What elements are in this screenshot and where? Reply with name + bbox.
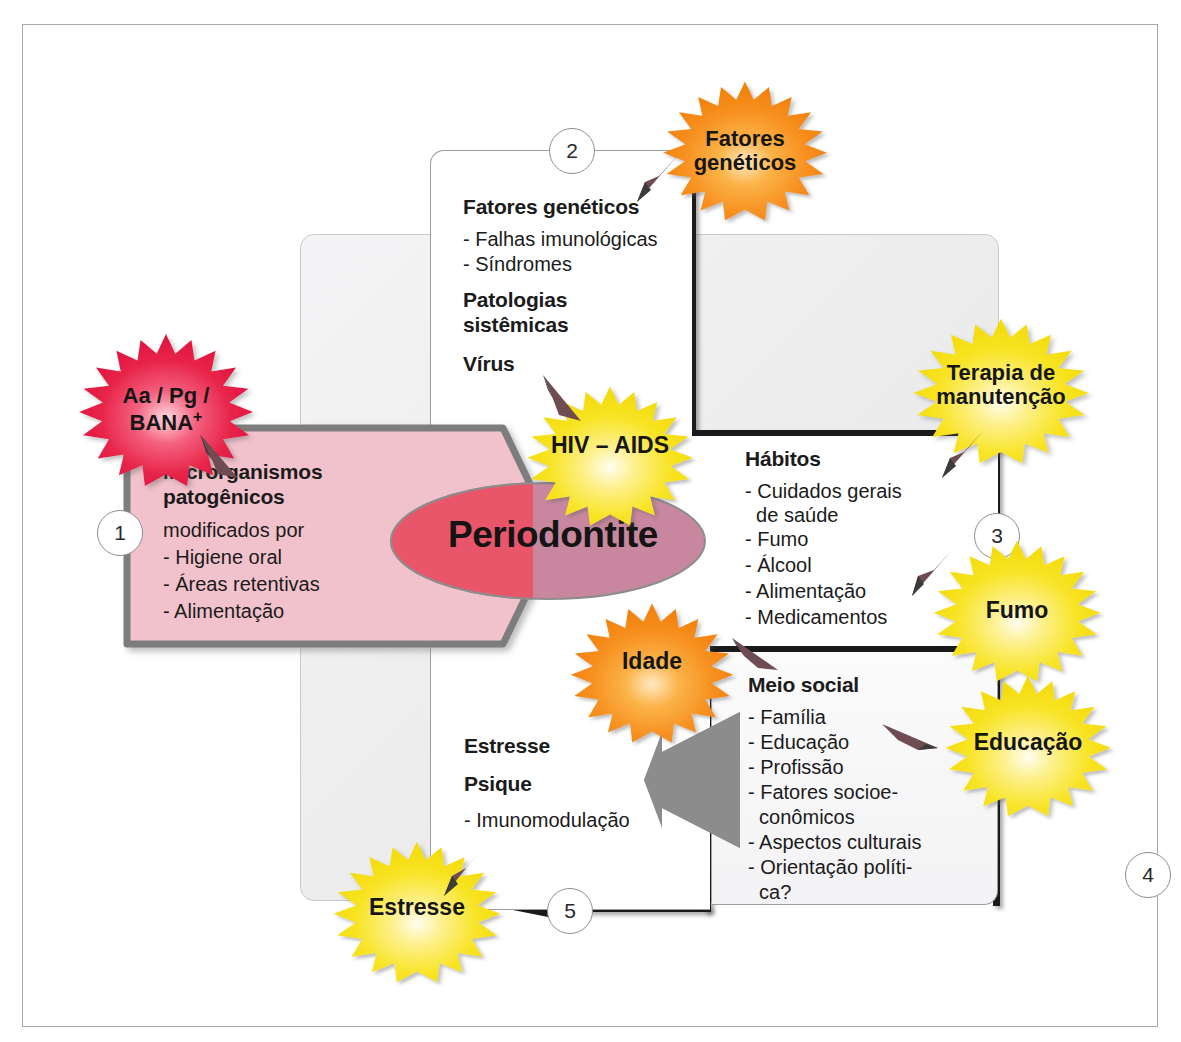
box-social-item-4: conômicos bbox=[748, 805, 855, 829]
pointer-icon-stress bbox=[440, 846, 484, 900]
burst-hiv-aids-label: HIV – AIDS bbox=[551, 433, 669, 458]
box-social-item-3: - Fatores socioe- bbox=[748, 780, 898, 804]
box-microorganisms-subtitle: modificados por bbox=[163, 518, 304, 542]
burst-maintenance-therapy-line2: manutenção bbox=[936, 385, 1066, 409]
burst-bana: Aa / Pg / BANA+ bbox=[42, 330, 290, 490]
box-microorganisms-item-1: - Áreas retentivas bbox=[163, 572, 320, 596]
burst-bana-line2-text: BANA bbox=[130, 411, 194, 436]
box-genetic-item-0: - Falhas imunológicas bbox=[463, 227, 658, 251]
box-social-item-5: - Aspectos culturais bbox=[748, 830, 921, 854]
box-habits-heading: Hábitos bbox=[745, 446, 821, 472]
burst-maintenance-therapy-line1: Terapia de bbox=[936, 361, 1066, 385]
number-badge-2: 2 bbox=[549, 128, 595, 174]
number-badge-1-label: 1 bbox=[114, 521, 126, 545]
burst-bana-line1: Aa / Pg / bbox=[123, 384, 210, 408]
pointer-icon-therapy bbox=[938, 428, 986, 482]
pointer-icon-bana bbox=[198, 432, 242, 482]
burst-age-label: Idade bbox=[622, 649, 682, 674]
pointer-icon-smoking bbox=[908, 548, 956, 600]
number-badge-1: 1 bbox=[97, 510, 143, 556]
number-badge-5-label: 5 bbox=[564, 899, 576, 923]
burst-maintenance-therapy-label: Terapia de manutenção bbox=[936, 361, 1066, 409]
box-genetic-heading3: Vírus bbox=[463, 351, 515, 377]
burst-genetic-factors-line1: Fatores bbox=[694, 127, 797, 151]
number-badge-2-label: 2 bbox=[566, 139, 578, 163]
pointer-icon-hiv bbox=[541, 373, 587, 425]
number-badge-4-label: 4 bbox=[1142, 863, 1154, 887]
box-habits-item-3: - Álcool bbox=[745, 553, 812, 577]
box-genetic-heading2-line1: Patologias bbox=[463, 287, 567, 313]
burst-maintenance-therapy: Terapia de manutenção bbox=[876, 315, 1126, 467]
burst-genetic-factors-label: Fatores genéticos bbox=[694, 127, 797, 175]
box-microorganisms-item-2: - Alimentação bbox=[163, 599, 284, 623]
burst-smoking-label: Fumo bbox=[986, 598, 1049, 623]
box-habits-item-1: de saúde bbox=[745, 503, 838, 527]
burst-bana-label: Aa / Pg / BANA+ bbox=[123, 384, 210, 436]
box-social-item-6: - Orientação políti- bbox=[748, 855, 913, 879]
burst-education-label: Educação bbox=[974, 730, 1083, 755]
pointer-icon-genetic bbox=[633, 152, 681, 206]
burst-bana-sup: + bbox=[193, 408, 202, 425]
pointer-icon-age bbox=[730, 636, 782, 676]
box-habits-item-2: - Fumo bbox=[745, 527, 808, 551]
box-genetic-heading: Fatores genéticos bbox=[463, 194, 639, 220]
burst-education: Educação bbox=[910, 672, 1146, 820]
box-habits-item-0: - Cuidados gerais bbox=[745, 479, 902, 503]
box-genetic-item-1: - Síndromes bbox=[463, 252, 572, 276]
box-microorganisms-item-0: - Higiene oral bbox=[163, 545, 282, 569]
box-social-item-7: ca? bbox=[748, 880, 791, 904]
box-stress-heading-2: Psique bbox=[464, 771, 532, 797]
pointer-icon-education bbox=[880, 720, 942, 754]
burst-hiv-aids: HIV – AIDS bbox=[492, 383, 728, 529]
burst-bana-line2: BANA+ bbox=[123, 408, 210, 436]
burst-genetic-factors-line2: genéticos bbox=[694, 151, 797, 175]
number-badge-5: 5 bbox=[547, 888, 593, 934]
number-badge-4: 4 bbox=[1125, 852, 1171, 898]
box-stress-item-0: - Imunomodulação bbox=[464, 808, 630, 832]
box-genetic-heading2-line2: sistêmicas bbox=[463, 312, 568, 338]
burst-stress: Estresse bbox=[298, 838, 536, 986]
diagram-canvas: Periodontite Microrganismos patogênicos … bbox=[0, 0, 1181, 1042]
box-social-item-2: - Profissão bbox=[748, 755, 844, 779]
